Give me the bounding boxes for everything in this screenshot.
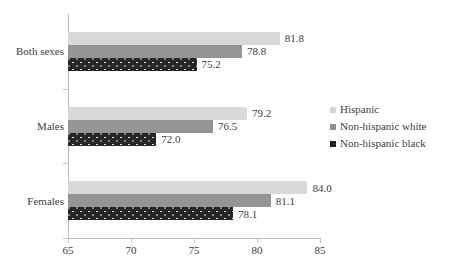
x-axis-tick-labels: 6570758085 bbox=[0, 245, 454, 261]
legend-swatch-icon bbox=[330, 124, 336, 130]
x-axis-tick bbox=[131, 238, 132, 243]
bar-value-label: 84.0 bbox=[312, 182, 331, 193]
x-axis-tick bbox=[257, 238, 258, 243]
bar-group: 79.276.572.0 bbox=[68, 107, 320, 146]
x-axis-tick-label: 75 bbox=[189, 245, 200, 256]
category-label-females: Females bbox=[2, 196, 64, 207]
bar[interactable] bbox=[68, 194, 271, 207]
bar[interactable] bbox=[68, 133, 156, 146]
x-axis-tick bbox=[320, 238, 321, 243]
bar[interactable] bbox=[68, 120, 213, 133]
legend-item-non-hispanic-black[interactable]: Non-hispanic black bbox=[330, 135, 454, 152]
bar-row: 84.0 bbox=[68, 181, 320, 194]
x-axis-tick bbox=[194, 238, 195, 243]
legend-swatch-icon bbox=[330, 141, 336, 147]
bar-group: 84.081.178.1 bbox=[68, 181, 320, 220]
bar-chart: Both sexes Males Females 81.878.875.279.… bbox=[0, 0, 454, 273]
legend-label: Hispanic bbox=[340, 104, 379, 115]
x-axis-tick-label: 65 bbox=[63, 245, 74, 256]
bar-value-label: 75.2 bbox=[202, 59, 221, 70]
category-label-both-sexes: Both sexes bbox=[2, 46, 64, 57]
bar-row: 79.2 bbox=[68, 107, 320, 120]
legend-item-non-hispanic-white[interactable]: Non-hispanic white bbox=[330, 118, 454, 135]
legend-swatch-icon bbox=[330, 107, 336, 113]
bar[interactable] bbox=[68, 107, 247, 120]
x-axis-tick bbox=[68, 238, 69, 243]
bar-row: 75.2 bbox=[68, 58, 320, 71]
legend-item-hispanic[interactable]: Hispanic bbox=[330, 101, 454, 118]
bar-value-label: 76.5 bbox=[218, 121, 237, 132]
bar-value-label: 78.1 bbox=[238, 208, 257, 219]
bar-row: 81.8 bbox=[68, 32, 320, 45]
bar[interactable] bbox=[68, 181, 307, 194]
bar[interactable] bbox=[68, 45, 242, 58]
category-label-males: Males bbox=[2, 121, 64, 132]
bar-value-label: 81.1 bbox=[276, 195, 295, 206]
bar-value-label: 79.2 bbox=[252, 108, 271, 119]
bar-row: 76.5 bbox=[68, 120, 320, 133]
bar-value-label: 78.8 bbox=[247, 46, 266, 57]
bar[interactable] bbox=[68, 32, 280, 45]
legend-label: Non-hispanic white bbox=[340, 121, 426, 132]
category-axis-labels: Both sexes Males Females bbox=[0, 14, 64, 238]
legend-label: Non-hispanic black bbox=[340, 138, 426, 149]
legend: Hispanic Non-hispanic white Non-hispanic… bbox=[330, 101, 454, 152]
bar-row: 78.8 bbox=[68, 45, 320, 58]
bar-row: 72.0 bbox=[68, 133, 320, 146]
bar-row: 81.1 bbox=[68, 194, 320, 207]
x-axis-tick-label: 80 bbox=[252, 245, 263, 256]
plot-area: 81.878.875.279.276.572.084.081.178.1 bbox=[68, 14, 320, 238]
bar-row: 78.1 bbox=[68, 207, 320, 220]
bar-value-label: 72.0 bbox=[161, 134, 180, 145]
bar[interactable] bbox=[68, 58, 197, 71]
bar-value-label: 81.8 bbox=[285, 33, 304, 44]
x-axis-tick-label: 85 bbox=[315, 245, 326, 256]
x-axis-tick-label: 70 bbox=[126, 245, 137, 256]
bar[interactable] bbox=[68, 207, 233, 220]
bar-group: 81.878.875.2 bbox=[68, 32, 320, 71]
